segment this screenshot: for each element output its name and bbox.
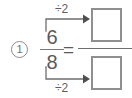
divide-label-top: ÷2: [55, 3, 68, 15]
answer-fraction-bar: [78, 48, 132, 49]
answer-box-denominator[interactable]: [91, 56, 122, 90]
equivalent-fraction-problem: 1 6 8 = ÷2 ÷2: [0, 0, 132, 98]
problem-number-badge: 1: [11, 41, 28, 58]
equals-sign: =: [63, 40, 74, 59]
source-fraction-numerator: 6: [46, 27, 57, 47]
answer-box-numerator[interactable]: [91, 8, 122, 42]
source-fraction-denominator: 8: [46, 52, 57, 72]
source-fraction-bar: [40, 49, 64, 50]
problem-number-label: 1: [16, 44, 22, 55]
divide-label-bottom: ÷2: [55, 82, 68, 94]
source-fraction: 6 8: [40, 26, 64, 72]
